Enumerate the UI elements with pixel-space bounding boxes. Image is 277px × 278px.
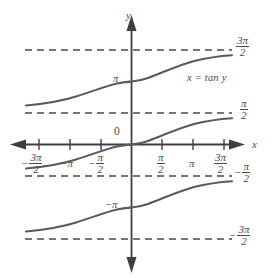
fraction-denominator: 2	[157, 164, 165, 175]
fraction-3pi-over-2: 3π 2	[214, 152, 227, 175]
x-tick-label-pi: π	[189, 158, 195, 169]
x-tick-label-3pi-over-two: 3π 2	[214, 152, 227, 175]
fraction-denominator: 2	[237, 236, 250, 247]
curve-branch-middle	[26, 118, 232, 168]
fraction-denominator: 2	[214, 164, 227, 175]
minus-sign: −	[229, 230, 237, 241]
equation-label: x = tan y	[187, 73, 227, 84]
x-axis-label: x	[252, 139, 257, 150]
minus-sign: −	[21, 158, 29, 169]
y-axis-point-label-negative-pi: −π	[105, 200, 117, 211]
fraction-pi-over-2: π 2	[240, 98, 248, 121]
fraction-3pi-over-2: 3π 2	[29, 152, 42, 175]
fraction-3pi-over-2: 3π 2	[237, 224, 250, 247]
x-tick-label-pi-over-two: π 2	[157, 152, 165, 175]
y-axis-arrow-down	[127, 257, 137, 273]
y-axis-point-label-pi: π	[113, 74, 118, 85]
figure-tan-y-graph: y x 0 x = tan y π −π 3π 2 π 2 − π 2 − 3π…	[0, 0, 277, 278]
fraction-denominator: 2	[240, 110, 248, 121]
x-tick-label-negative-3pi-over-2: − 3π 2	[21, 152, 42, 175]
x-axis-arrow-right	[229, 140, 245, 150]
curve-branch-lower	[26, 181, 232, 231]
minus-sign: −	[88, 158, 96, 169]
asymptote-label-pi-over-2: π 2	[240, 98, 248, 121]
origin-label: 0	[114, 126, 120, 138]
x-tick-label-negative-pi: −π	[60, 158, 73, 169]
minus-sign: −	[234, 167, 242, 178]
x-axis-arrow-left	[10, 140, 26, 150]
x-tick-label-negative-pi-over-two: − π 2	[88, 152, 104, 175]
fraction-denominator: 2	[242, 173, 250, 184]
fraction-denominator: 2	[236, 47, 249, 58]
asymptote-label-negative-pi-over-2: − π 2	[234, 161, 250, 184]
fraction-3pi-over-2: 3π 2	[236, 35, 249, 58]
fraction-denominator: 2	[96, 164, 104, 175]
fraction-pi-over-2: π 2	[157, 152, 165, 175]
asymptote-label-negative-3pi-over-2: − 3π 2	[229, 224, 250, 247]
y-axis-label: y	[126, 10, 131, 21]
fraction-denominator: 2	[29, 164, 42, 175]
fraction-pi-over-2: π 2	[96, 152, 104, 175]
asymptote-label-3pi-over-2: 3π 2	[236, 35, 249, 58]
fraction-pi-over-2: π 2	[242, 161, 250, 184]
